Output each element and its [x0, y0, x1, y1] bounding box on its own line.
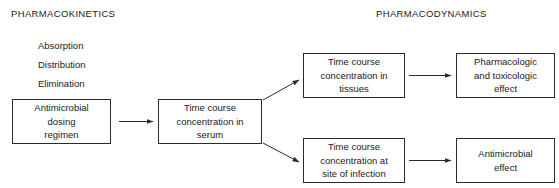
node-tissue-concentration-line-3: tissues: [320, 82, 387, 96]
node-tissue-concentration-line-2: concentration in: [320, 69, 387, 83]
node-dosing-regimen-line-3: regimen: [34, 128, 88, 142]
pharmacokinetics-process-list: Absorption Distribution Elimination: [38, 36, 86, 93]
node-antimicrobial-effect-line-1: Antimicrobial: [478, 147, 532, 161]
node-dosing-regimen: Antimicrobial dosing regimen: [12, 99, 111, 144]
node-pharmacologic-effect-line-1: Pharmacologic: [474, 55, 537, 69]
node-dosing-regimen-line-1: Antimicrobial: [34, 101, 88, 115]
list-item-absorption: Absorption: [38, 36, 86, 55]
pharmacokinetics-pharmacodynamics-diagram: PHARMACOKINETICS PHARMACODYNAMICS Absorp…: [0, 0, 559, 188]
node-site-concentration-line-1: Time course: [320, 140, 388, 154]
list-item-distribution: Distribution: [38, 55, 86, 74]
edge-serum-to-site: [263, 143, 299, 162]
list-item-elimination: Elimination: [38, 74, 86, 93]
node-antimicrobial-effect-line-2: effect: [478, 161, 532, 175]
section-title-pharmacokinetics: PHARMACOKINETICS: [11, 8, 115, 19]
section-title-pharmacodynamics: PHARMACODYNAMICS: [376, 8, 487, 19]
node-pharmacologic-effect-line-3: effect: [474, 82, 537, 96]
node-site-of-infection-concentration: Time course concentration at site of inf…: [303, 138, 405, 183]
node-serum-concentration-line-2: concentration in: [176, 115, 243, 129]
node-serum-concentration-line-1: Time course: [176, 101, 243, 115]
node-site-concentration-line-3: site of infection: [320, 167, 388, 181]
node-tissue-concentration: Time course concentration in tissues: [303, 53, 405, 98]
node-site-concentration-line-2: concentration at: [320, 154, 388, 168]
edge-serum-to-tissues: [263, 80, 299, 100]
node-antimicrobial-effect: Antimicrobial effect: [456, 138, 555, 183]
node-pharmacologic-effect: Pharmacologic and toxicologic effect: [456, 53, 555, 98]
node-dosing-regimen-line-2: dosing: [34, 115, 88, 129]
node-serum-concentration: Time course concentration in serum: [158, 99, 262, 144]
node-pharmacologic-effect-line-2: and toxicologic: [474, 69, 537, 83]
node-tissue-concentration-line-1: Time course: [320, 55, 387, 69]
node-serum-concentration-line-3: serum: [176, 128, 243, 142]
